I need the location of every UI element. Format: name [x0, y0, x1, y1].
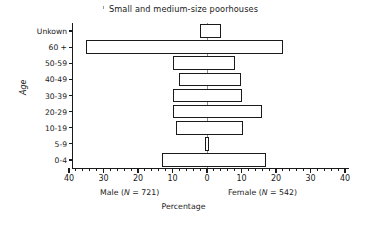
- y-axis-label-5-9: 5-9: [55, 139, 67, 148]
- y-axis-label-10-19: 10-19: [45, 123, 67, 132]
- x-axis-tick-20: [275, 168, 276, 173]
- x-axis-tick-0: [206, 168, 207, 173]
- bar-60-: [86, 40, 283, 54]
- x-axis-tick-24: [289, 168, 290, 171]
- x-axis-tick-40: [344, 168, 345, 173]
- bar-20-29: [173, 105, 263, 119]
- x-axis-tick-38: [338, 168, 339, 171]
- x-axis-tick-m34: [89, 168, 90, 171]
- x-axis-tick-26: [296, 168, 297, 171]
- x-axis-tick-22: [282, 168, 283, 171]
- x-axis-tick-label-6: 20: [271, 174, 281, 183]
- male-caption-text: Male (: [100, 188, 124, 197]
- bar-40-49: [179, 73, 241, 87]
- x-axis-tick-m6: [186, 168, 187, 171]
- x-axis-tick-m4: [193, 168, 194, 171]
- x-axis-tick-label-5: 10: [236, 174, 246, 183]
- y-axis-label-unkown: Unkown: [37, 27, 67, 36]
- population-pyramid-figure: Small and medium-size poorhouses Age Unk…: [0, 0, 367, 227]
- x-axis-tick-18: [269, 168, 270, 171]
- x-axis-tick-m8: [179, 168, 180, 171]
- x-axis-tick-m28: [110, 168, 111, 171]
- y-axis-label-20-29: 20-29: [45, 107, 67, 116]
- chart-title: Small and medium-size poorhouses: [0, 4, 367, 14]
- x-axis-tick-m10: [172, 168, 173, 173]
- female-caption-tail: = 542): [268, 188, 297, 197]
- x-axis-tick-12: [248, 168, 249, 171]
- x-axis-tick-m12: [165, 168, 166, 171]
- x-axis-tick-m38: [75, 168, 76, 171]
- x-axis-tick-34: [324, 168, 325, 171]
- x-axis-title: Percentage: [0, 202, 367, 211]
- male-caption-tail: = 721): [130, 188, 159, 197]
- y-axis-tick-unkown: [69, 30, 74, 31]
- bar-10-19: [176, 121, 243, 135]
- x-axis-tick-label-1: 30: [98, 174, 108, 183]
- x-axis-tick-label-2: 20: [133, 174, 143, 183]
- y-axis-tick-20-29: [69, 111, 74, 112]
- x-axis-tick-14: [255, 168, 256, 171]
- plot-area: Unkown60 +50-5940-4930-3920-2910-195-90-…: [72, 23, 349, 168]
- y-axis-label-30-39: 30-39: [45, 91, 67, 100]
- x-axis-tick-m36: [82, 168, 83, 171]
- y-axis-tick-40-49: [69, 79, 74, 80]
- y-axis-tick-30-39: [69, 95, 74, 96]
- y-axis-tick-50-59: [69, 63, 74, 64]
- x-axis-tick-m22: [131, 168, 132, 171]
- y-axis-label-50-59: 50-59: [45, 59, 67, 68]
- y-axis-label-60-: 60 +: [49, 43, 67, 52]
- x-axis-tick-4: [220, 168, 221, 171]
- x-axis-line: [72, 168, 349, 169]
- female-caption: Female (N = 542): [228, 188, 297, 197]
- x-axis-tick-label-4: 0: [204, 174, 209, 183]
- bar-50-59: [173, 56, 235, 70]
- x-axis-tick-m30: [103, 168, 104, 173]
- x-axis-tick-m14: [158, 168, 159, 171]
- x-axis-tick-m32: [96, 168, 97, 171]
- x-axis-tick-30: [310, 168, 311, 173]
- x-axis-tick-16: [262, 168, 263, 171]
- bar-30-39: [173, 89, 242, 103]
- x-axis-tick-2: [213, 168, 214, 171]
- bar-0-4: [162, 153, 266, 167]
- y-axis-tick-60-: [69, 47, 74, 48]
- x-axis-tick-label-7: 30: [305, 174, 315, 183]
- male-caption: Male (N = 721): [100, 188, 159, 197]
- female-caption-text: Female (: [228, 188, 262, 197]
- x-axis-tick-m16: [151, 168, 152, 171]
- x-axis-tick-28: [303, 168, 304, 171]
- y-axis-tick-0-4: [69, 159, 74, 160]
- x-axis-tick-m24: [124, 168, 125, 171]
- y-axis-tick-5-9: [69, 143, 74, 144]
- x-axis-tick-m40: [68, 168, 69, 173]
- bar-unkown: [200, 24, 221, 38]
- x-axis-tick-10: [241, 168, 242, 173]
- x-axis-tick-m18: [144, 168, 145, 171]
- y-axis-title: Age: [19, 80, 28, 95]
- y-axis-tick-10-19: [69, 127, 74, 128]
- x-axis-tick-label-3: 10: [167, 174, 177, 183]
- x-axis-tick-36: [331, 168, 332, 171]
- x-axis-tick-label-0: 40: [64, 174, 74, 183]
- x-axis-tick-32: [317, 168, 318, 171]
- x-axis-tick-m2: [200, 168, 201, 171]
- x-axis-tick-8: [234, 168, 235, 171]
- x-axis-tick-label-8: 40: [340, 174, 350, 183]
- y-axis-label-0-4: 0-4: [55, 155, 67, 164]
- x-axis-tick-m26: [117, 168, 118, 171]
- x-axis-tick-m20: [137, 168, 138, 173]
- bar-5-9: [205, 137, 208, 151]
- x-axis-tick-6: [227, 168, 228, 171]
- y-axis-label-40-49: 40-49: [45, 75, 67, 84]
